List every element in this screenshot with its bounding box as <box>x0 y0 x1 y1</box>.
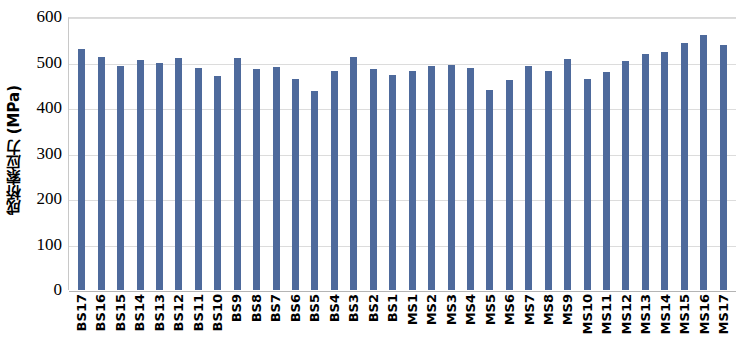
y-tick-label: 0 <box>54 280 63 300</box>
x-tick-label: MS15 <box>678 294 691 334</box>
bar[interactable] <box>137 60 144 290</box>
bar-slot <box>500 18 519 290</box>
x-tick-slot: BS17 <box>71 292 90 347</box>
bar[interactable] <box>700 35 707 290</box>
bar-slot <box>616 18 635 290</box>
bar-slot <box>169 18 188 290</box>
bar[interactable] <box>661 52 668 290</box>
bar[interactable] <box>98 57 105 290</box>
x-axis-tick-labels: BS17BS16BS15BS14BS13BS12BS11BS10BS9BS8BS… <box>68 292 736 347</box>
bar[interactable] <box>622 61 629 290</box>
y-axis-title-text: 成桥索应力 (MPa) <box>3 85 24 215</box>
bar-slot <box>539 18 558 290</box>
bar-slot <box>675 18 694 290</box>
bar-slot <box>636 18 655 290</box>
y-tick-label: 300 <box>37 144 63 164</box>
x-tick-label: BS14 <box>133 294 146 331</box>
x-tick-label: MS4 <box>464 294 477 325</box>
bar[interactable] <box>175 58 182 290</box>
bar[interactable] <box>467 68 474 290</box>
bar[interactable] <box>506 80 513 290</box>
x-tick-slot: BS12 <box>168 292 187 347</box>
bar[interactable] <box>195 68 202 290</box>
bar-slot <box>364 18 383 290</box>
bar[interactable] <box>545 71 552 290</box>
bar[interactable] <box>486 90 493 290</box>
x-tick-label: MS14 <box>658 294 671 334</box>
x-tick-slot: MS2 <box>421 292 440 347</box>
bar[interactable] <box>117 66 124 290</box>
bar[interactable] <box>370 69 377 290</box>
x-tick-label: BS6 <box>288 294 301 322</box>
bar[interactable] <box>253 69 260 290</box>
x-tick-label: BS9 <box>230 294 243 322</box>
x-tick-slot: BS8 <box>246 292 265 347</box>
bar-slot <box>130 18 149 290</box>
x-tick-slot: BS2 <box>363 292 382 347</box>
bar[interactable] <box>409 71 416 290</box>
x-tick-label: BS1 <box>386 294 399 322</box>
bar-slot <box>305 18 324 290</box>
x-tick-label: MS7 <box>522 294 535 325</box>
x-tick-slot: MS8 <box>538 292 557 347</box>
x-tick-slot: BS14 <box>129 292 148 347</box>
bar[interactable] <box>331 71 338 290</box>
bar[interactable] <box>720 45 727 290</box>
bar[interactable] <box>681 43 688 290</box>
x-tick-slot: MS6 <box>499 292 518 347</box>
x-tick-label: BS11 <box>191 294 204 331</box>
x-tick-label: BS17 <box>74 294 87 331</box>
bar[interactable] <box>448 65 455 290</box>
bar[interactable] <box>214 76 221 290</box>
x-tick-slot: BS16 <box>90 292 109 347</box>
bar[interactable] <box>156 63 163 290</box>
x-tick-label: MS6 <box>503 294 516 325</box>
x-tick-slot: BS7 <box>266 292 285 347</box>
x-tick-label: BS4 <box>327 294 340 322</box>
x-tick-label: BS3 <box>347 294 360 322</box>
bar[interactable] <box>234 58 241 290</box>
x-tick-slot: BS3 <box>344 292 363 347</box>
x-tick-label: BS13 <box>152 294 165 331</box>
x-tick-label: MS9 <box>561 294 574 325</box>
bar[interactable] <box>78 49 85 290</box>
y-axis-title: 成桥索应力 (MPa) <box>0 0 26 300</box>
x-tick-label: MS2 <box>425 294 438 325</box>
bar-slot <box>558 18 577 290</box>
bars-layer <box>69 18 736 290</box>
y-tick-label: 600 <box>37 7 63 27</box>
bar[interactable] <box>642 54 649 290</box>
bar-slot <box>577 18 596 290</box>
x-tick-label: BS5 <box>308 294 321 322</box>
bar-slot <box>519 18 538 290</box>
bar[interactable] <box>311 91 318 290</box>
bar-slot <box>480 18 499 290</box>
bar[interactable] <box>584 79 591 290</box>
bar[interactable] <box>389 75 396 290</box>
x-tick-slot: MS1 <box>402 292 421 347</box>
y-axis-tick-labels: 0100200300400500600 <box>26 17 68 290</box>
bar[interactable] <box>273 67 280 290</box>
bar-slot <box>655 18 674 290</box>
bar[interactable] <box>350 57 357 290</box>
x-tick-slot: MS3 <box>441 292 460 347</box>
bar-chart: 成桥索应力 (MPa) 0100200300400500600 BS17BS16… <box>0 0 740 347</box>
x-tick-slot: BS4 <box>324 292 343 347</box>
x-tick-label: BS12 <box>172 294 185 331</box>
bar[interactable] <box>564 59 571 290</box>
bar-slot <box>91 18 110 290</box>
x-tick-slot: BS5 <box>305 292 324 347</box>
bar[interactable] <box>525 66 532 290</box>
x-tick-slot: MS14 <box>655 292 674 347</box>
y-tick-label: 500 <box>37 53 63 73</box>
bar-slot <box>713 18 732 290</box>
bar-slot <box>266 18 285 290</box>
x-tick-slot: MS9 <box>558 292 577 347</box>
bar[interactable] <box>292 79 299 290</box>
x-tick-slot: MS17 <box>713 292 732 347</box>
x-tick-slot: BS11 <box>188 292 207 347</box>
bar[interactable] <box>428 66 435 290</box>
bar[interactable] <box>603 72 610 290</box>
plot-area <box>68 17 736 290</box>
x-tick-slot: BS13 <box>149 292 168 347</box>
